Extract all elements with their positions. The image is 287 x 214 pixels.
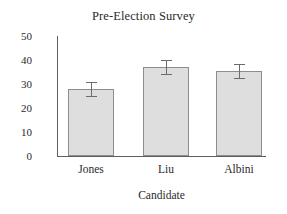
error-cap-top-jones — [86, 82, 97, 83]
error-cap-bottom-liu — [161, 74, 172, 75]
error-bar-liu — [166, 60, 167, 74]
x-tick-label-jones: Jones — [51, 163, 131, 175]
plot-area: 50 40 30 20 10 0 Jones Liu Albini — [57, 36, 266, 156]
x-axis-line — [57, 156, 266, 157]
y-tick-label-10: 10 — [10, 127, 32, 138]
error-cap-bottom-albini — [234, 78, 245, 79]
bar-albini[interactable] — [216, 71, 262, 156]
error-cap-top-liu — [161, 60, 172, 61]
y-tick-label-40: 40 — [10, 55, 32, 66]
x-tick-label-liu: Liu — [126, 163, 206, 175]
error-bar-jones — [91, 82, 92, 96]
chart-title: Pre-Election Survey — [0, 9, 287, 24]
y-tick-label-30: 30 — [10, 79, 32, 90]
error-bar-albini — [239, 64, 240, 78]
error-cap-top-albini — [234, 64, 245, 65]
x-axis-title: Candidate — [57, 189, 266, 201]
y-axis-line — [57, 36, 58, 157]
error-cap-bottom-jones — [86, 96, 97, 97]
bar-jones[interactable] — [68, 89, 114, 156]
bar-liu[interactable] — [143, 67, 189, 156]
y-tick-label-50: 50 — [10, 31, 32, 42]
y-tick-label-0: 0 — [10, 151, 32, 162]
x-tick-label-albini: Albini — [199, 163, 279, 175]
chart-figure: Pre-Election Survey Percent of the Votes… — [0, 0, 287, 214]
y-tick-label-20: 20 — [10, 103, 32, 114]
